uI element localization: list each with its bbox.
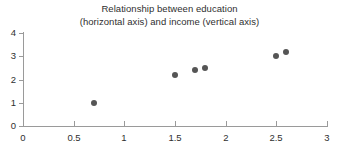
y-tick-mark (19, 103, 24, 104)
y-tick-mark (19, 56, 24, 57)
x-tick-label: 0.5 (59, 133, 89, 143)
x-tick-mark (276, 121, 277, 126)
y-tick-label: 2 (0, 75, 16, 85)
x-tick-mark (124, 121, 125, 126)
y-tick-label: 3 (0, 51, 16, 61)
x-tick-label: 2 (211, 133, 241, 143)
y-tick-label: 0 (0, 121, 16, 131)
data-point (91, 100, 97, 106)
x-axis-line (23, 126, 328, 127)
data-point (172, 72, 178, 78)
data-point (283, 49, 289, 55)
x-tick-label: 2.5 (261, 133, 291, 143)
y-tick-label: 1 (0, 98, 16, 108)
scatter-chart-figure: Relationship between education (horizont… (0, 0, 339, 158)
x-tick-label: 1.5 (160, 133, 190, 143)
y-tick-label: 4 (0, 28, 16, 38)
x-tick-label: 0 (8, 133, 38, 143)
data-point (273, 53, 279, 59)
y-tick-mark (19, 80, 24, 81)
x-tick-label: 1 (109, 133, 139, 143)
x-tick-mark (23, 121, 24, 126)
data-point (202, 65, 208, 71)
x-tick-mark (226, 121, 227, 126)
x-tick-mark (327, 121, 328, 126)
plot-area: 01234 00.511.522.53 (0, 0, 339, 158)
x-tick-mark (175, 121, 176, 126)
x-tick-label: 3 (312, 133, 339, 143)
y-tick-mark (19, 33, 24, 34)
data-point (192, 67, 198, 73)
x-tick-mark (74, 121, 75, 126)
y-tick-mark (19, 126, 24, 127)
